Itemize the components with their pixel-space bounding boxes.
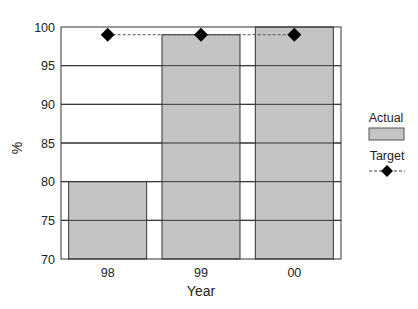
bar-chart: 707580859095100 989900 % Year Actual Tar… bbox=[0, 0, 418, 309]
legend-target-label: Target bbox=[370, 149, 405, 163]
target-diamond-icon bbox=[101, 28, 115, 42]
y-tick-label: 75 bbox=[41, 214, 55, 228]
legend: Actual Target bbox=[369, 111, 405, 177]
legend-diamond-icon bbox=[381, 165, 393, 177]
y-axis-ticks: 707580859095100 bbox=[34, 21, 55, 267]
x-tick-label: 00 bbox=[287, 266, 301, 280]
x-axis-ticks: 989900 bbox=[101, 266, 302, 280]
legend-actual-label: Actual bbox=[369, 111, 404, 125]
y-tick-label: 70 bbox=[41, 253, 55, 267]
y-axis-label: % bbox=[9, 142, 25, 154]
y-tick-label: 90 bbox=[41, 98, 55, 112]
x-tick-label: 99 bbox=[194, 266, 208, 280]
x-tick-label: 98 bbox=[101, 266, 115, 280]
bar-99 bbox=[162, 35, 240, 259]
x-axis-label: Year bbox=[187, 283, 216, 299]
legend-actual-swatch bbox=[369, 128, 404, 140]
y-tick-label: 85 bbox=[41, 137, 55, 151]
y-tick-label: 95 bbox=[41, 59, 55, 73]
y-tick-label: 100 bbox=[34, 21, 55, 35]
y-tick-label: 80 bbox=[41, 175, 55, 189]
